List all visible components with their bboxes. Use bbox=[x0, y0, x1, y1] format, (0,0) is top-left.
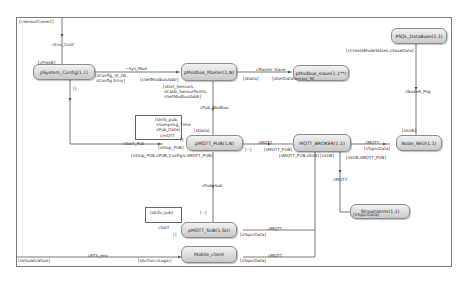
edge-label: [sMQTT_PUB] bbox=[264, 147, 292, 152]
node-label: Node_RED(1,1) bbox=[402, 141, 437, 146]
edge-label: [sTopicData] bbox=[240, 258, 266, 263]
node-mqtt-sub[interactable]: pMQTT_SUB(1,SU) bbox=[181, 222, 237, 238]
node-node-red[interactable]: Node_RED(1,1) bbox=[396, 135, 442, 151]
node-label: pMQTT_PUB(1,N) bbox=[195, 141, 234, 146]
edge-label: [sTopicData] bbox=[364, 146, 390, 151]
edge-label: [sData] bbox=[194, 128, 209, 133]
edge-label: [] bbox=[73, 86, 76, 91]
edge-label: [sTopicData] bbox=[353, 212, 379, 217]
node-mqtt-pub[interactable]: pMQTT_PUB(1,N) bbox=[186, 135, 243, 151]
node-system-config[interactable]: pSystem_Config(1,1) bbox=[33, 64, 95, 80]
edge-label: [--] bbox=[200, 210, 206, 215]
edge-label: [--] bbox=[245, 147, 251, 152]
node-label: pModbus_slave(1,1**) bbox=[296, 71, 347, 76]
edge-label: cStart_Pub bbox=[122, 141, 144, 146]
edge-label: ~Sys_Mod bbox=[125, 66, 147, 71]
node-label: PSQL_DataBase(1,1) bbox=[395, 34, 442, 39]
edge-label: cPub_Modbus bbox=[200, 105, 229, 110]
node-label: Mobile_client bbox=[194, 252, 224, 257]
edge-label: [] bbox=[180, 137, 183, 142]
node-mobile-client[interactable]: Mobile_client bbox=[181, 246, 237, 263]
edge-label: cMQTT bbox=[365, 140, 379, 145]
edge-label: [sGetDataSensor_N] bbox=[272, 76, 315, 81]
edge-label: [sSUB] bbox=[320, 153, 334, 158]
edge-label: cmQTT bbox=[160, 133, 175, 138]
edge-label: [sVisualization] bbox=[18, 258, 50, 263]
edge-label: [cSetModbusAddr] bbox=[140, 77, 179, 82]
edge-label: [sData] bbox=[243, 76, 258, 81]
edge-label: cMQTT bbox=[258, 140, 272, 145]
node-label: pModbus_Master(1,N) bbox=[184, 70, 234, 75]
edge-label: cSalT bbox=[158, 225, 169, 230]
edge-label: cMQTT bbox=[333, 177, 347, 182]
edge-label: cPub_Sub bbox=[202, 183, 222, 188]
node-mqtt-broker[interactable]: MQTT_BROKER(1,1) bbox=[293, 134, 351, 152]
node-label: pSystem_Config(1,1) bbox=[40, 70, 88, 75]
edge-label: [sAction,sLogin] bbox=[138, 258, 171, 263]
edge-label: [cCreateModeTables,sSaveData] bbox=[346, 48, 414, 53]
edge-label: [sInfo_pub, sSampling_Time sPub_Data] bbox=[155, 117, 190, 132]
edge-label: [sGet_Sensors, sCalib_SensorPoints, sSet… bbox=[163, 84, 207, 99]
edge-label: [sInfo_sub] bbox=[150, 210, 173, 215]
edge-label: [] bbox=[173, 232, 176, 237]
edge-label: [sConfig_St_Ok, sConfig Error] bbox=[95, 73, 128, 83]
edge-label: [sSUB] bbox=[402, 128, 416, 133]
edge-label: [cPresB] bbox=[38, 60, 55, 65]
edge-label: cEnv_Conf bbox=[52, 42, 74, 47]
edge-label: cRTS_env bbox=[88, 253, 108, 258]
state-diagram: pSystem_Config(1,1) pModbus_Master(1,N) … bbox=[0, 0, 466, 282]
edge-label: [sSUB,sMQTT_PUB] bbox=[346, 155, 386, 160]
edge-label: [cSensorConect] bbox=[19, 19, 54, 24]
edge-label: cNodeR_Psq bbox=[405, 89, 431, 94]
node-label: pMQTT_SUB(1,SU) bbox=[188, 228, 230, 233]
edge-label: [sStop_PUB] bbox=[158, 145, 184, 150]
edge-label: cMaster Slave bbox=[256, 67, 285, 72]
edge-label: cMQTT bbox=[268, 226, 282, 231]
node-psql-database[interactable]: PSQL_DataBase(1,1) bbox=[391, 28, 447, 44]
node-modbus-master[interactable]: pModbus_Master(1,N) bbox=[181, 63, 237, 81]
edge-label: cMQTT bbox=[268, 253, 282, 258]
edge-label: [sMQTT_PUB,sSUB] bbox=[279, 153, 319, 158]
edge-label: [sStop_PUB,sPUB_ConfigS,sMQTT_PUB] bbox=[131, 153, 213, 158]
edge-label: [sTopicData] bbox=[240, 232, 266, 237]
node-label: MQTT_BROKER(1,1) bbox=[299, 141, 344, 146]
